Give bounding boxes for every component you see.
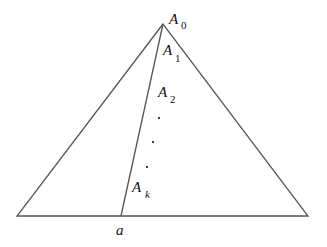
label-a2: A 2 [157, 84, 176, 105]
label-a0: A 0 [168, 11, 187, 31]
triangle-diagram: A 0 A 1 A 2 A k a [0, 0, 327, 247]
svg-text:A: A [131, 179, 142, 195]
svg-text:1: 1 [175, 52, 181, 64]
label-base-point: a [116, 222, 124, 238]
svg-text:A: A [168, 11, 179, 27]
ellipsis-dot [146, 166, 148, 168]
svg-text:A: A [157, 84, 168, 100]
ellipsis-dot [158, 117, 160, 119]
svg-text:A: A [162, 42, 173, 58]
svg-text:2: 2 [170, 93, 176, 105]
label-ak: A k [131, 179, 151, 200]
ellipsis-dot [152, 141, 154, 143]
label-a1: A 1 [162, 42, 181, 64]
svg-text:k: k [145, 188, 151, 200]
svg-text:0: 0 [181, 19, 187, 31]
inner-segment [121, 24, 163, 216]
